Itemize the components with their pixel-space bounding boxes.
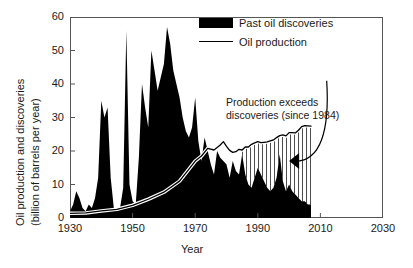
y-tick-label: 10 (40, 178, 64, 190)
x-tick-label: 1930 (50, 222, 90, 234)
x-axis-label: Year (181, 243, 203, 255)
x-tick-label: 1970 (175, 222, 215, 234)
y-axis-label: Oil production and discoveries (billion … (0, 0, 44, 240)
annotation-text: Production exceeds discoveries (since 19… (226, 96, 339, 122)
legend-item-production: Oil production (199, 32, 369, 51)
legend: Past oil discoveries Oil production (199, 13, 369, 53)
legend-line-icon (199, 37, 233, 47)
y-tick-label: 30 (40, 111, 64, 123)
legend-swatch-icon (199, 18, 233, 28)
x-tick-label: 2030 (363, 222, 403, 234)
x-tick-label: 1990 (238, 222, 278, 234)
y-tick-label: 40 (40, 77, 64, 89)
y-tick-label: 50 (40, 44, 64, 56)
x-tick-label: 2010 (300, 222, 340, 234)
y-tick-label: 20 (40, 144, 64, 156)
legend-label-production: Oil production (239, 36, 307, 48)
discoveries-area (70, 27, 311, 218)
legend-label-discoveries: Past oil discoveries (239, 17, 333, 29)
annotation-line2: discoveries (since 1984) (226, 109, 339, 122)
legend-item-discoveries: Past oil discoveries (199, 13, 369, 32)
y-axis-label-line1: Oil production and discoveries (14, 79, 26, 226)
annotation-line1: Production exceeds (226, 96, 339, 109)
x-tick-label: 1950 (113, 222, 153, 234)
y-tick-label: 60 (40, 10, 64, 22)
oil-discoveries-chart: Oil production and discoveries (billion … (0, 0, 413, 268)
